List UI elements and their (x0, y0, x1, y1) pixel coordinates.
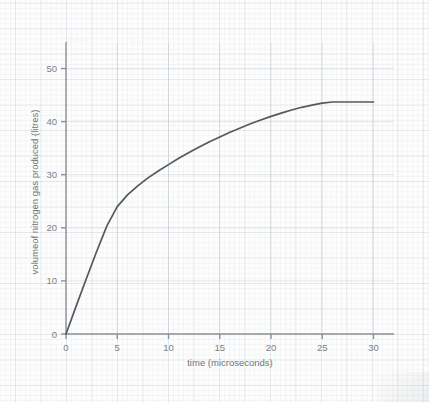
x-tick-label: 30 (368, 342, 379, 353)
x-gridlines (117, 42, 373, 334)
y-axis-tick-labels: 01020304050 (46, 63, 57, 339)
y-tick-label: 30 (46, 169, 57, 180)
x-tick-label: 5 (115, 342, 120, 353)
y-gridlines (66, 69, 394, 281)
x-axis-ticks (66, 334, 374, 339)
line-chart: 01020304050 051015202530 time (microseco… (0, 0, 429, 402)
y-tick-label: 40 (46, 116, 57, 127)
x-axis-title: time (microseconds) (187, 357, 273, 368)
x-tick-label: 15 (214, 342, 225, 353)
x-tick-label: 20 (266, 342, 277, 353)
x-tick-label: 10 (163, 342, 174, 353)
x-tick-label: 25 (317, 342, 328, 353)
y-axis-ticks (61, 69, 66, 334)
x-tick-label: 0 (63, 342, 68, 353)
y-tick-label: 10 (46, 275, 57, 286)
y-tick-label: 0 (52, 329, 57, 340)
x-axis-tick-labels: 051015202530 (63, 342, 378, 353)
y-tick-label: 50 (46, 63, 57, 74)
chart-svg: 01020304050 051015202530 time (microseco… (0, 0, 429, 402)
y-axis-title: volumeof nitrogen gas produced (litres) (29, 110, 40, 275)
y-tick-label: 20 (46, 222, 57, 233)
